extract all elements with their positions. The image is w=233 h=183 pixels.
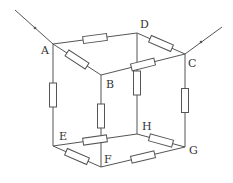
resistor-ef-icon	[65, 148, 90, 164]
resistor-dh-icon	[134, 71, 141, 95]
circuit-diagram	[0, 0, 233, 183]
resistor-fg-icon	[131, 151, 156, 163]
resistor-ae-icon	[50, 83, 57, 107]
resistor-ad-icon	[83, 33, 108, 43]
resistor-cg-icon	[182, 89, 189, 113]
resistor-ab-icon	[65, 50, 89, 69]
resistor-dc-icon	[149, 35, 174, 51]
wire-terminal-a	[15, 10, 53, 44]
label-d: D	[140, 19, 149, 30]
wire-terminal-c	[185, 27, 222, 54]
resistor-hg-icon	[149, 134, 174, 147]
label-e: E	[59, 131, 67, 142]
label-c: C	[188, 58, 196, 69]
label-a: A	[41, 45, 49, 56]
label-b: B	[106, 79, 114, 90]
resistor-bf-icon	[98, 104, 105, 128]
label-h: H	[142, 121, 152, 132]
arrow-in-a-icon	[34, 27, 37, 30]
resistor-eh-icon	[83, 135, 108, 145]
arrow-in-c-icon	[200, 41, 203, 44]
label-f: F	[104, 154, 112, 165]
label-g: G	[189, 145, 198, 156]
resistor-bc-icon	[131, 58, 156, 71]
